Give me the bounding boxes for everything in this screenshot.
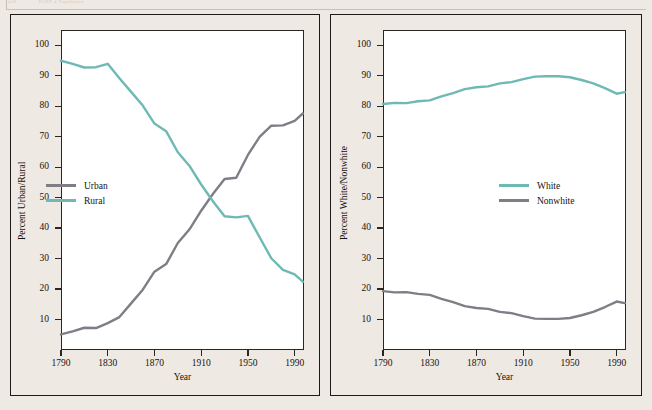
y-axis-tick-label: 30 xyxy=(23,254,49,264)
series-line-white xyxy=(383,76,625,104)
x-axis-tick-label: 1910 xyxy=(504,359,542,369)
x-axis-tick-mark xyxy=(616,350,617,356)
y-axis-tick-label: 20 xyxy=(23,284,49,294)
x-axis-tick-mark xyxy=(523,350,524,356)
series-line-urban xyxy=(61,114,303,335)
running-head-number: 418 xyxy=(8,0,17,4)
y-axis-tick-label: 100 xyxy=(23,40,49,50)
y-axis-label: Percent Urban/Rural xyxy=(17,162,27,240)
series-line-rural xyxy=(61,61,303,282)
legend-swatch-icon xyxy=(46,184,76,187)
legend-item-rural[interactable]: Rural xyxy=(46,193,108,208)
y-axis-tick-label: 30 xyxy=(345,254,371,264)
legend-label: Rural xyxy=(84,196,105,206)
x-axis-tick-mark xyxy=(154,350,155,356)
x-axis-tick-label: 1990 xyxy=(598,359,636,369)
x-axis-tick-mark xyxy=(60,350,61,356)
y-axis-tick-label: 90 xyxy=(345,71,371,81)
x-axis-tick-mark xyxy=(294,350,295,356)
x-axis-tick-label: 1990 xyxy=(276,359,314,369)
chart-panel-urban-rural: 1020304050607080901001790183018701910195… xyxy=(10,14,320,396)
x-axis-label: Year xyxy=(383,372,626,382)
running-head-title: PART 4 Population xyxy=(39,0,84,4)
legend-label: Nonwhite xyxy=(537,196,574,206)
legend-item-nonwhite[interactable]: Nonwhite xyxy=(499,193,574,208)
x-axis-tick-label: 1950 xyxy=(551,359,589,369)
x-axis-tick-label: 1790 xyxy=(42,359,80,369)
header-rule-vertical xyxy=(6,0,7,10)
y-axis-tick-label: 80 xyxy=(345,101,371,111)
legend-swatch-icon xyxy=(46,199,76,202)
y-axis-tick-label: 100 xyxy=(345,40,371,50)
x-axis-tick-mark xyxy=(201,350,202,356)
x-axis-tick-mark xyxy=(107,350,108,356)
y-axis-label: Percent White/Nonwhite xyxy=(339,146,349,240)
x-axis-tick-label: 1870 xyxy=(457,359,495,369)
series-line-nonwhite xyxy=(383,291,625,319)
x-axis-tick-label: 1910 xyxy=(182,359,220,369)
legend-swatch-icon xyxy=(499,184,529,187)
legend-item-urban[interactable]: Urban xyxy=(46,178,108,193)
legend-item-white[interactable]: White xyxy=(499,178,574,193)
running-head: 418PART 4 Population xyxy=(8,0,84,4)
x-axis-tick-label: 1950 xyxy=(229,359,267,369)
page-canvas: 418PART 4 Population 1020304050607080901… xyxy=(0,0,652,410)
x-axis-tick-mark xyxy=(382,350,383,356)
y-axis-tick-label: 80 xyxy=(23,101,49,111)
x-axis-label: Year xyxy=(61,372,304,382)
y-axis-tick-label: 10 xyxy=(345,315,371,325)
x-axis-tick-label: 1870 xyxy=(135,359,173,369)
chart-panel-white-nonwhite: 1020304050607080901001790183018701910195… xyxy=(330,14,642,396)
x-axis-tick-label: 1790 xyxy=(364,359,402,369)
legend: UrbanRural xyxy=(46,178,108,208)
legend-swatch-icon xyxy=(499,199,529,202)
y-axis-tick-label: 90 xyxy=(23,71,49,81)
x-axis-tick-mark xyxy=(247,350,248,356)
x-axis-tick-mark xyxy=(429,350,430,356)
y-axis-tick-label: 70 xyxy=(23,132,49,142)
y-axis-tick-label: 10 xyxy=(23,315,49,325)
y-axis-tick-label: 70 xyxy=(345,132,371,142)
x-axis-tick-mark xyxy=(476,350,477,356)
y-axis-tick-label: 20 xyxy=(345,284,371,294)
x-axis-tick-label: 1830 xyxy=(89,359,127,369)
x-axis-tick-mark xyxy=(569,350,570,356)
legend-label: Urban xyxy=(84,181,108,191)
legend-label: White xyxy=(537,181,560,191)
legend: WhiteNonwhite xyxy=(499,178,574,208)
header-rule xyxy=(6,9,646,10)
x-axis-tick-label: 1830 xyxy=(411,359,449,369)
